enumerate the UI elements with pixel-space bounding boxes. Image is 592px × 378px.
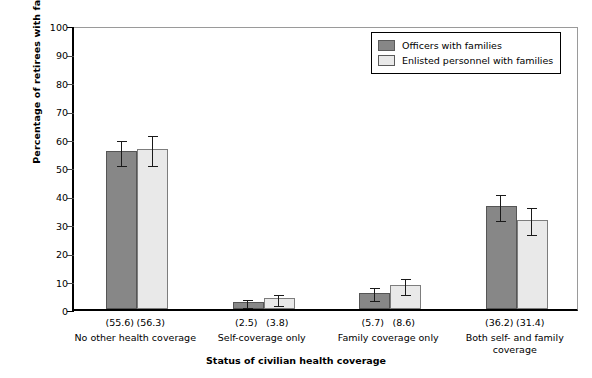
bar-enlisted bbox=[137, 149, 168, 309]
y-axis-tick-label: 70 bbox=[38, 108, 68, 118]
error-bar-cap-lower bbox=[496, 221, 506, 222]
y-axis-tick bbox=[67, 311, 74, 312]
y-axis-tick bbox=[67, 84, 74, 85]
x-axis-category-label: Self-coverage only bbox=[199, 332, 326, 344]
error-bar-cap-lower bbox=[243, 308, 253, 309]
y-axis-tick-label: 90 bbox=[38, 51, 68, 61]
x-axis-title: Status of civilian health coverage bbox=[0, 355, 592, 366]
error-bar-cap-lower bbox=[401, 295, 411, 296]
error-bar bbox=[405, 279, 406, 295]
legend-label-officers: Officers with families bbox=[402, 40, 502, 51]
error-bar-cap-upper bbox=[148, 136, 158, 137]
y-axis-tick-label: 20 bbox=[38, 250, 68, 260]
bar-value-label: (56.3) bbox=[121, 317, 181, 328]
error-bar-cap-upper bbox=[496, 195, 506, 196]
y-axis-tick bbox=[67, 255, 74, 256]
bar-value-label: (31.4) bbox=[500, 317, 560, 328]
y-axis-tick-label: 40 bbox=[38, 193, 68, 203]
error-bar-cap-upper bbox=[117, 141, 127, 142]
error-bar bbox=[500, 196, 501, 223]
error-bar-cap-upper bbox=[370, 288, 380, 289]
error-bar bbox=[531, 209, 532, 236]
legend-swatch-dark-icon bbox=[378, 40, 395, 51]
bar-chart-figure: Percentage of retirees with families 010… bbox=[0, 0, 592, 378]
bar-value-label: (3.8) bbox=[247, 317, 307, 328]
legend-item-officers: Officers with families bbox=[378, 38, 553, 53]
bar-officers bbox=[106, 151, 137, 309]
error-bar-cap-upper bbox=[401, 279, 411, 280]
y-axis-tick bbox=[67, 226, 74, 227]
y-axis-tick bbox=[67, 113, 74, 114]
y-axis-tick-label: 30 bbox=[38, 222, 68, 232]
y-axis-tick-label: 50 bbox=[38, 165, 68, 175]
y-axis-tick bbox=[67, 27, 74, 28]
error-bar-cap-lower bbox=[148, 166, 158, 167]
error-bar bbox=[121, 142, 122, 167]
x-axis-category-label: No other health coverage bbox=[72, 332, 199, 344]
error-bar-cap-lower bbox=[117, 166, 127, 167]
bar-value-label: (8.6) bbox=[374, 317, 434, 328]
error-bar bbox=[374, 289, 375, 301]
y-axis-tick-label: 100 bbox=[38, 23, 68, 33]
y-axis-tick-label: 60 bbox=[38, 137, 68, 147]
error-bar-cap-upper bbox=[527, 208, 537, 209]
y-axis-tick bbox=[67, 198, 74, 199]
y-axis-tick bbox=[67, 141, 74, 142]
legend-swatch-light-icon bbox=[378, 55, 395, 66]
error-bar-cap-lower bbox=[370, 301, 380, 302]
legend-label-enlisted: Enlisted personnel with families bbox=[402, 55, 553, 66]
error-bar-cap-upper bbox=[243, 300, 253, 301]
x-axis-category-label: Family coverage only bbox=[325, 332, 452, 344]
error-bar-cap-upper bbox=[274, 295, 284, 296]
error-bar-cap-lower bbox=[527, 235, 537, 236]
y-axis-tick-label: 80 bbox=[38, 80, 68, 90]
y-axis-tick bbox=[67, 56, 74, 57]
y-axis-tick-label: 0 bbox=[38, 307, 68, 317]
chart-legend: Officers with families Enlisted personne… bbox=[371, 32, 561, 74]
y-axis-tick bbox=[67, 283, 74, 284]
legend-item-enlisted: Enlisted personnel with families bbox=[378, 53, 553, 68]
x-axis-category-label: Both self- and family coverage bbox=[452, 332, 579, 355]
error-bar bbox=[152, 137, 153, 167]
error-bar-cap-lower bbox=[274, 306, 284, 307]
y-axis-tick-label: 10 bbox=[38, 279, 68, 289]
y-axis-tick bbox=[67, 169, 74, 170]
